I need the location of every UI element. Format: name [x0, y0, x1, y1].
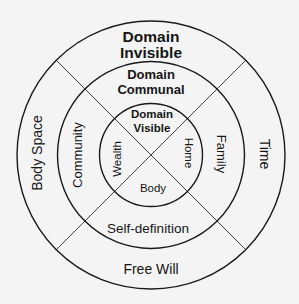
- inner-left-label: Wealth: [111, 141, 123, 177]
- outer-right-label: Time: [257, 139, 273, 170]
- middle-title-line2: Communal: [117, 82, 184, 97]
- middle-title-line1: Domain: [127, 67, 175, 82]
- outer-title-line2: Invisible: [120, 44, 182, 61]
- middle-right-label: Family: [214, 135, 229, 174]
- inner-title-line1: Domain: [131, 108, 173, 120]
- outer-left-label: Body Space: [29, 115, 45, 191]
- middle-left-label: Community: [70, 122, 85, 188]
- outer-title-line1: Domain: [123, 28, 180, 45]
- middle-bottom-label: Self-definition: [107, 221, 189, 236]
- inner-title-line2: Visible: [134, 122, 171, 134]
- concentric-domains-diagram: Domain Invisible Body Space Time Free Wi…: [0, 0, 299, 304]
- inner-right-label: Home: [183, 138, 195, 169]
- inner-bottom-label: Body: [140, 182, 166, 194]
- outer-bottom-label: Free Will: [123, 261, 178, 277]
